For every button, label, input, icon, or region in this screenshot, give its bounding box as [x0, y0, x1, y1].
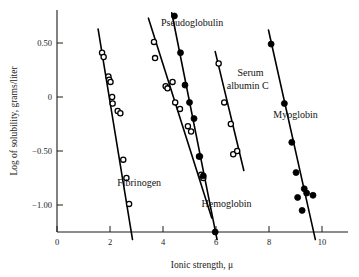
data-point [235, 148, 240, 153]
data-point [293, 170, 299, 176]
data-point [185, 124, 190, 129]
x-tick-label: 10 [318, 237, 327, 247]
y-axis-ticks: 0.500−0.50−1.00 [32, 38, 63, 210]
data-point [310, 192, 316, 198]
data-point [165, 86, 170, 91]
data-point [187, 99, 193, 105]
data-point [177, 50, 183, 56]
data-point [170, 79, 175, 84]
data-point [222, 100, 227, 105]
data-point [173, 100, 178, 105]
chart-figure: 0246810 0.500−0.50−1.00 FibrinogenPseudo… [0, 0, 359, 277]
data-point [152, 56, 157, 61]
y-tick-label: 0 [48, 92, 52, 102]
x-tick-label: 4 [161, 237, 166, 247]
y-tick-label: 0.50 [37, 38, 52, 48]
x-axis-label: Ionic strength, μ [171, 260, 233, 270]
data-point [177, 106, 182, 111]
regression-line [148, 18, 211, 218]
y-tick-label: −0.50 [32, 146, 52, 156]
regression-line [268, 30, 315, 240]
data-point [299, 207, 305, 213]
series-annotations: FibrinogenPseudoglobulinSerumalbumin CHe… [117, 17, 318, 209]
y-axis-label: Log of solubility, grams/liter [9, 66, 19, 176]
data-point [108, 79, 113, 84]
data-point [268, 41, 274, 47]
series-label: Pseudoglobulin [161, 17, 223, 28]
data-point [197, 153, 203, 159]
data-point [191, 116, 197, 122]
data-point [281, 100, 287, 106]
data-point [200, 173, 206, 179]
series-label: Serum [237, 67, 263, 78]
data-point [121, 157, 126, 162]
y-tick-label: −1.00 [32, 200, 52, 210]
data-point [101, 54, 106, 59]
data-point [110, 94, 115, 99]
regression-line [98, 29, 132, 240]
data-point [212, 229, 218, 235]
data-point [151, 39, 156, 44]
data-point [216, 61, 221, 66]
x-tick-label: 0 [55, 237, 59, 247]
x-tick-label: 8 [267, 237, 271, 247]
series-label: Hemoglobin [202, 198, 252, 209]
data-point [126, 201, 131, 206]
data-point [118, 111, 123, 116]
data-point [182, 82, 188, 88]
solubility-scatter-plot: 0246810 0.500−0.50−1.00 FibrinogenPseudo… [0, 0, 359, 277]
data-point [228, 121, 233, 126]
data-point [110, 101, 115, 106]
data-point [289, 139, 295, 145]
data-point [188, 129, 193, 134]
series-label: Fibrinogen [117, 177, 161, 188]
x-tick-label: 2 [108, 237, 112, 247]
x-axis-ticks: 0246810 [55, 226, 326, 247]
series-label: albumin C [227, 80, 269, 91]
series-label: Myoglobin [273, 109, 317, 120]
data-point [295, 194, 301, 200]
data-point [304, 190, 310, 196]
